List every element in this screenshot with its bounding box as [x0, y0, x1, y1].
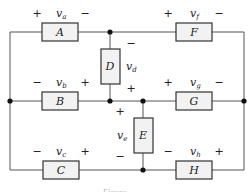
- element-f-label: F: [189, 26, 198, 39]
- element-h-label: H: [188, 164, 199, 177]
- polarity-h-right: +: [214, 145, 223, 158]
- element-e-label: E: [138, 129, 147, 142]
- node-dot: [107, 29, 112, 34]
- element-d-label: D: [105, 60, 115, 73]
- voltage-d-label: vd: [126, 60, 137, 74]
- node-dot: [241, 98, 246, 103]
- polarity-e-bottom: −: [115, 150, 124, 163]
- voltage-h-label: vh: [190, 145, 201, 159]
- voltage-e-label: ve: [117, 129, 127, 143]
- element-g-label: G: [190, 95, 199, 108]
- voltage-f-label: vf: [190, 7, 200, 21]
- polarity-c-right: +: [80, 145, 89, 158]
- circuit-diagram: A B C D E F G H va vb vc vd ve vf vg vh …: [0, 0, 251, 192]
- voltage-g-label: vg: [190, 76, 201, 90]
- polarity-d-top: −: [126, 37, 135, 50]
- figure-caption: Figure: [103, 187, 127, 192]
- voltage-c-label: vc: [56, 145, 66, 159]
- polarity-f-left: +: [163, 7, 172, 20]
- polarity-a-left: +: [32, 7, 41, 20]
- polarity-h-left: −: [163, 145, 172, 158]
- polarity-e-top: +: [115, 105, 124, 118]
- voltage-b-label: vb: [56, 76, 67, 90]
- polarity-d-bottom: +: [126, 82, 135, 95]
- voltage-a-label: va: [56, 7, 66, 21]
- polarity-a-right: −: [80, 7, 89, 20]
- polarity-c-left: −: [32, 145, 41, 158]
- node-dot: [7, 98, 12, 103]
- polarity-g-right: −: [214, 76, 223, 89]
- element-b-label: B: [55, 95, 64, 108]
- element-a-label: A: [55, 26, 64, 39]
- polarity-f-right: −: [214, 7, 223, 20]
- polarity-b-left: −: [32, 76, 41, 89]
- polarity-b-right: +: [80, 76, 89, 89]
- node-dot: [107, 98, 112, 103]
- node-dot: [140, 167, 145, 172]
- element-c-label: C: [57, 164, 66, 177]
- node-dot: [140, 98, 145, 103]
- polarity-g-left: +: [163, 76, 172, 89]
